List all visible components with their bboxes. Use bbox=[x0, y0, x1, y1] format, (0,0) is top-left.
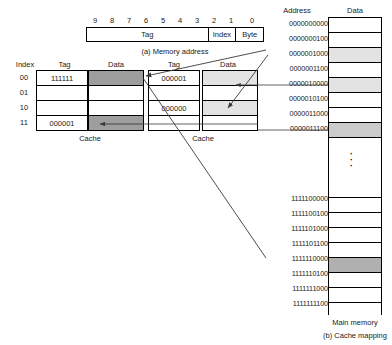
right-cache-data-cell bbox=[203, 101, 257, 116]
main-memory-data-header: Data bbox=[328, 6, 382, 15]
memory-data-cell bbox=[329, 258, 381, 273]
right-cache-tag-header: Tag bbox=[148, 60, 200, 69]
memory-data-cell bbox=[329, 63, 381, 78]
bit-label-0: 0 bbox=[246, 16, 258, 25]
right-cache-data-cell bbox=[203, 71, 257, 86]
memory-data-cell bbox=[329, 48, 381, 63]
left-cache-index-01: 01 bbox=[16, 88, 32, 97]
left-cache-tag-header: Tag bbox=[42, 60, 87, 69]
bit-label-6: 6 bbox=[140, 16, 152, 25]
memory-data-cell bbox=[329, 288, 381, 303]
memory-data-cell bbox=[329, 33, 381, 48]
left-cache-tag-cell bbox=[37, 86, 87, 101]
right-cache-tag-cell bbox=[149, 86, 199, 101]
left-cache-index-00: 00 bbox=[16, 73, 32, 82]
memory-address-label: 0000001100 bbox=[268, 64, 328, 73]
memory-address-label: 1111111100 bbox=[268, 299, 328, 308]
memory-address-label: 0000010100 bbox=[268, 94, 328, 103]
bit-label-7: 7 bbox=[123, 16, 135, 25]
memory-data-cell bbox=[329, 108, 381, 123]
right-cache-tag-cell: 000000 bbox=[149, 101, 199, 116]
main-memory-label: Main memory bbox=[300, 318, 392, 327]
left-cache-data-cell bbox=[89, 71, 143, 86]
memory-address-label: 1111110000 bbox=[268, 254, 328, 263]
memory-data-cell bbox=[329, 123, 381, 138]
memory-data-gap bbox=[329, 138, 381, 198]
right-cache-label: Cache bbox=[148, 134, 258, 143]
memory-address-label: 0000011000 bbox=[268, 109, 328, 118]
memory-address-label: 1111110100 bbox=[268, 269, 328, 278]
left-cache-index-11: 11 bbox=[16, 118, 32, 127]
vertical-ellipsis-icon: ··· bbox=[349, 150, 353, 168]
memory-data-cell bbox=[329, 198, 381, 213]
main-memory-address-header: Address bbox=[266, 6, 328, 15]
right-cache-tag-cell bbox=[149, 116, 199, 130]
memory-address-label: 0000001000 bbox=[268, 49, 328, 58]
memory-address-label: 1111101100 bbox=[268, 239, 328, 248]
address-field-tag: Tag bbox=[87, 28, 208, 41]
left-cache-data-cell bbox=[89, 116, 143, 130]
right-cache-tag-cell: 000001 bbox=[149, 71, 199, 86]
right-cache-data-cell bbox=[203, 86, 257, 101]
memory-address-label: 1111100100 bbox=[268, 209, 328, 218]
bit-label-9: 9 bbox=[89, 16, 101, 25]
left-cache-label: Cache bbox=[36, 134, 144, 143]
memory-address-label: 0000000000 bbox=[268, 19, 328, 28]
bit-label-1: 1 bbox=[225, 16, 237, 25]
memory-data-cell bbox=[329, 273, 381, 288]
memory-address-label: 0000010000 bbox=[268, 79, 328, 88]
address-field-byte: Byte bbox=[236, 28, 263, 41]
memory-data-cell bbox=[329, 228, 381, 243]
memory-address-label: 0000011100 bbox=[268, 124, 328, 133]
left-cache-tag-cell: 111111 bbox=[37, 71, 87, 86]
main-memory-data-column bbox=[328, 17, 382, 315]
bit-label-5: 5 bbox=[157, 16, 169, 25]
left-cache-tag-cell: 000001 bbox=[37, 116, 87, 130]
bit-label-4: 4 bbox=[174, 16, 186, 25]
address-field-index: Index bbox=[208, 28, 237, 41]
left-cache-data-column bbox=[88, 70, 144, 131]
memory-address-label: 1111111000 bbox=[268, 284, 328, 293]
memory-address-diagram: Tag Index Byte bbox=[86, 27, 264, 42]
bit-label-2: 2 bbox=[208, 16, 220, 25]
left-cache-tag-cell bbox=[37, 101, 87, 116]
memory-data-cell bbox=[329, 303, 381, 317]
memory-data-cell bbox=[329, 213, 381, 228]
bit-label-8: 8 bbox=[106, 16, 118, 25]
right-cache-data-column bbox=[202, 70, 258, 131]
bit-label-3: 3 bbox=[191, 16, 203, 25]
memory-data-cell bbox=[329, 243, 381, 258]
left-cache-index-header: Index bbox=[10, 60, 40, 69]
left-cache-tag-column: 111111 000001 bbox=[36, 70, 88, 131]
memory-data-cell bbox=[329, 78, 381, 93]
memory-data-cell bbox=[329, 18, 381, 33]
caption-part-b: (b) Cache mapping bbox=[300, 331, 392, 340]
memory-data-cell bbox=[329, 93, 381, 108]
memory-address-label: 0000000100 bbox=[268, 34, 328, 43]
left-cache-index-10: 10 bbox=[16, 103, 32, 112]
right-cache-tag-column: 000001 000000 bbox=[148, 70, 200, 131]
right-cache-data-header: Data bbox=[200, 60, 256, 69]
left-cache-data-cell bbox=[89, 86, 143, 101]
left-cache-data-cell bbox=[89, 101, 143, 116]
caption-part-a: (a) Memory address bbox=[86, 47, 264, 56]
right-cache-data-cell bbox=[203, 116, 257, 130]
memory-address-label: 1111101000 bbox=[268, 224, 328, 233]
left-cache-data-header: Data bbox=[88, 60, 144, 69]
memory-address-label: 1111100000 bbox=[268, 194, 328, 203]
